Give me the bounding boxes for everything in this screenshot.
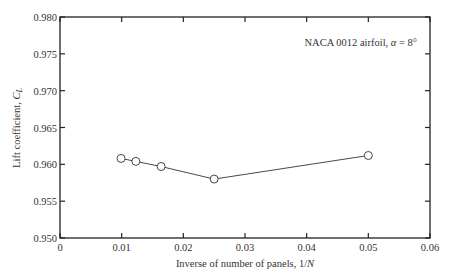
data-series bbox=[117, 151, 372, 183]
data-point-marker bbox=[210, 175, 218, 183]
y-tick-label: 0.960 bbox=[33, 159, 57, 170]
x-tick-label: 0.01 bbox=[112, 242, 130, 253]
x-tick-label: 0.05 bbox=[359, 242, 377, 253]
y-tick-label: 0.955 bbox=[33, 196, 57, 207]
data-point-marker bbox=[364, 151, 372, 159]
x-tick-label: 0.03 bbox=[236, 242, 254, 253]
x-axis-title: Inverse of number of panels, 1/N bbox=[176, 258, 315, 269]
y-tick-label: 0.965 bbox=[33, 123, 57, 134]
plot-frame bbox=[60, 17, 430, 238]
y-axis-title: Lift coefficient, CL bbox=[11, 88, 24, 168]
data-point-marker bbox=[117, 154, 125, 162]
annotation: NACA 0012 airfoil, α = 8° bbox=[305, 37, 417, 48]
x-tick-label: 0.04 bbox=[297, 242, 316, 253]
x-tick-label: 0.02 bbox=[174, 242, 192, 253]
data-point-marker bbox=[157, 163, 165, 171]
x-tick-label: 0 bbox=[57, 242, 62, 253]
y-tick-label: 0.970 bbox=[33, 86, 57, 97]
y-tick-label: 0.950 bbox=[33, 233, 57, 244]
y-tick-label: 0.975 bbox=[33, 49, 57, 60]
y-tick-label: 0.980 bbox=[33, 12, 57, 23]
x-axis-ticks: 00.010.020.030.040.050.06 bbox=[57, 17, 439, 253]
plot-border bbox=[60, 17, 430, 238]
x-tick-label: 0.06 bbox=[421, 242, 439, 253]
data-point-marker bbox=[132, 157, 140, 165]
lift-coefficient-chart: 00.010.020.030.040.050.06 0.9500.9550.96… bbox=[0, 0, 450, 278]
